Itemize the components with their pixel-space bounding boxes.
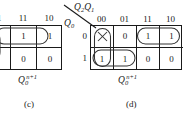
kmap-d-col-header-0: 00 <box>90 14 113 24</box>
kmap-d-output-base: Q <box>118 75 125 85</box>
kmap-d-cell-r0c2: 1 <box>137 26 160 48</box>
kmap-d-colvar-sub-1: 2 <box>81 6 84 13</box>
kmap-d-colvar-base-2: Q <box>84 2 91 12</box>
kmap-d-col-header-1: 01 <box>113 14 136 24</box>
kmap-d-caption-letter: (d) <box>126 100 137 109</box>
kmap-d-cell-r1c1: 1 <box>114 48 137 70</box>
kmap-d-cell-r0c0 <box>91 26 114 48</box>
kmap-d-colvar-base-1: Q <box>74 2 81 12</box>
kmap-d-panel: Q2Q1 Q0 00 01 11 10 0 1 0 <box>0 0 190 120</box>
kmap-d-column-variable-label: Q2Q1 <box>74 3 94 13</box>
kmap-d-output-sub: 0 <box>125 79 128 86</box>
kmap-d-cell-r1c0: 1 <box>91 48 114 70</box>
kmap-d-column-headers: 00 01 11 10 <box>90 14 182 24</box>
kmap-d-grid: 0 1 1 1 1 0 0 <box>90 25 182 70</box>
kmap-d-row-headers: 0 1 <box>72 25 87 70</box>
kmap-d-row-header-0: 0 <box>83 32 88 41</box>
dont-care-x-icon <box>97 31 108 42</box>
kmap-d-cell-r0c1: 0 <box>114 26 137 48</box>
kmap-d-row-header-1: 1 <box>83 54 88 63</box>
kmap-d-output-expression: Q0n+1 <box>118 76 139 86</box>
kmap-d-output-sup: n+1 <box>126 73 137 80</box>
kmap-d-rowvar-base: Q <box>64 18 71 28</box>
kmap-d-cell-r0c3: 1 <box>160 26 183 48</box>
kmap-d-cell-r1c2: 0 <box>137 48 160 70</box>
kmap-d-col-header-3: 10 <box>159 14 182 24</box>
kmap-d-colvar-sub-2: 1 <box>91 6 94 13</box>
kmap-figure: 01 11 10 0 1 1 1 0 0 Q0n+1 (c) <box>0 0 190 120</box>
kmap-d-col-header-2: 11 <box>136 14 159 24</box>
kmap-d-cell-r1c3: 0 <box>160 48 183 70</box>
